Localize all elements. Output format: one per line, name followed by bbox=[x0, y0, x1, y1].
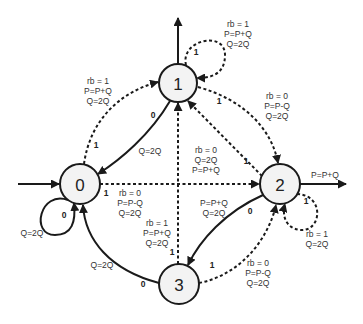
svg-text:rb = 0: rb = 0 bbox=[195, 145, 217, 155]
state-node-2: 2 bbox=[260, 164, 300, 204]
state-node-3: 3 bbox=[159, 264, 199, 304]
edge-label-2-1: rb = 0 Q=2Q P=P+Q 1 bbox=[192, 145, 249, 175]
svg-text:P=P+Q: P=P+Q bbox=[224, 29, 252, 39]
svg-text:1: 1 bbox=[244, 156, 249, 166]
svg-text:P=P+Q: P=P+Q bbox=[200, 198, 228, 208]
state-label: 0 bbox=[75, 176, 84, 195]
state-label: 3 bbox=[174, 276, 183, 295]
edge-1-0 bbox=[98, 101, 170, 174]
state-label: 2 bbox=[275, 176, 284, 195]
edge-0-0 bbox=[41, 199, 75, 235]
edge-label-0-1: rb = 1 P=P+Q Q=2Q 1 bbox=[84, 76, 112, 150]
svg-text:Q=2Q: Q=2Q bbox=[247, 278, 270, 288]
edge-label-2-3: P=P+Q Q=2Q 0 bbox=[200, 198, 253, 218]
svg-text:P=P-Q: P=P-Q bbox=[245, 268, 271, 278]
svg-text:P=P+Q: P=P+Q bbox=[192, 165, 220, 175]
svg-text:Q=2Q: Q=2Q bbox=[203, 208, 226, 218]
svg-text:0: 0 bbox=[248, 206, 253, 216]
svg-text:rb = 1: rb = 1 bbox=[146, 218, 168, 228]
svg-text:rb = 1: rb = 1 bbox=[227, 19, 249, 29]
svg-text:Q=2Q: Q=2Q bbox=[195, 155, 218, 165]
svg-text:rb = 0: rb = 0 bbox=[247, 258, 269, 268]
edge-label-1-1: rb = 1 P=P+Q Q=2Q 1 bbox=[194, 19, 253, 57]
state-node-1: 1 bbox=[159, 64, 197, 102]
svg-text:Q=2Q: Q=2Q bbox=[119, 208, 142, 218]
edge-label-2-output: P=P+Q bbox=[311, 170, 339, 180]
svg-text:P=P-Q: P=P-Q bbox=[264, 101, 290, 111]
svg-text:0: 0 bbox=[151, 110, 156, 120]
svg-text:Q=2Q: Q=2Q bbox=[87, 96, 110, 106]
svg-text:Q=2Q: Q=2Q bbox=[306, 239, 329, 249]
state-diagram: 0 1 2 3 rb = 1 P=P+Q Q=2Q 1 rb = 1 P=P+Q… bbox=[0, 0, 363, 324]
edge-label-0-2: 1 rb = 0 P=P-Q Q=2Q bbox=[104, 188, 144, 218]
svg-text:0: 0 bbox=[62, 210, 67, 220]
svg-text:0: 0 bbox=[141, 279, 146, 289]
svg-text:Q=2Q: Q=2Q bbox=[146, 238, 169, 248]
svg-text:P=P+Q: P=P+Q bbox=[143, 228, 171, 238]
svg-text:Q=2Q: Q=2Q bbox=[266, 111, 289, 121]
svg-text:P=P+Q: P=P+Q bbox=[84, 86, 112, 96]
state-node-0: 0 bbox=[60, 164, 100, 204]
svg-text:rb = 0: rb = 0 bbox=[119, 188, 141, 198]
svg-text:1: 1 bbox=[94, 140, 99, 150]
svg-text:P=P+Q: P=P+Q bbox=[311, 170, 339, 180]
svg-text:1: 1 bbox=[104, 188, 109, 198]
svg-text:1: 1 bbox=[194, 47, 199, 57]
svg-text:1: 1 bbox=[170, 247, 175, 257]
state-label: 1 bbox=[173, 75, 182, 94]
svg-text:rb = 0: rb = 0 bbox=[266, 91, 288, 101]
svg-text:1: 1 bbox=[304, 196, 309, 206]
svg-text:1: 1 bbox=[210, 260, 215, 270]
svg-text:Q=2Q: Q=2Q bbox=[21, 228, 44, 238]
edge-label-2-2: 1 rb = 1 Q=2Q bbox=[304, 196, 329, 249]
svg-text:Q=2Q: Q=2Q bbox=[139, 146, 162, 156]
edge-label-3-1: rb = 1 P=P+Q Q=2Q 1 bbox=[143, 218, 175, 257]
svg-text:1: 1 bbox=[217, 96, 222, 106]
svg-text:rb = 1: rb = 1 bbox=[87, 76, 109, 86]
svg-text:Q=2Q: Q=2Q bbox=[91, 260, 114, 270]
svg-text:rb = 1: rb = 1 bbox=[306, 229, 328, 239]
svg-text:P=P-Q: P=P-Q bbox=[117, 198, 143, 208]
svg-text:Q=2Q: Q=2Q bbox=[227, 39, 250, 49]
